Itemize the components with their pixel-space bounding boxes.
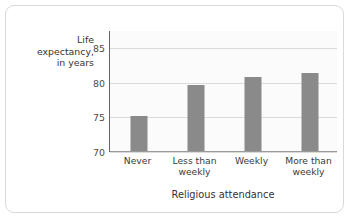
x-axis-tick-label-line: Weekly [221,155,283,166]
y-axis-title-line-3: in years [12,57,94,69]
x-axis-tick-label-line: weekly [164,166,226,177]
x-axis-tick-label-line: More than [278,155,340,166]
x-axis-tick-label: Less thanweekly [164,155,226,177]
y-axis-title: Life expectancy, in years [12,34,94,69]
x-axis-tick-label-line: weekly [278,166,340,177]
bar[interactable] [301,73,318,152]
gridline [110,152,337,153]
bar-slot [224,31,281,152]
x-axis-tick-labels: NeverLess thanweeklyWeeklyMore thanweekl… [109,155,337,185]
chart-card: Life expectancy, in years 70758085 Never… [5,5,344,213]
bars-group [110,31,337,152]
plot-area: 70758085 [109,31,337,152]
x-axis-title: Religious attendance [109,189,337,200]
x-axis-tick-label: More thanweekly [278,155,340,177]
x-axis-tick-label: Never [107,155,169,166]
bar-slot [167,31,224,152]
bar[interactable] [187,85,204,152]
y-axis-tick-label: 75 [93,112,105,123]
y-axis-tick-label: 85 [93,43,105,54]
bar-slot [110,31,167,152]
y-axis-title-line-1: Life [12,34,94,46]
y-axis-tick-label: 80 [93,77,105,88]
x-axis-tick-label-line: Never [107,155,169,166]
y-axis-tick-label: 70 [93,147,105,158]
bar-slot [281,31,338,152]
bar[interactable] [130,116,147,152]
x-axis-tick-label: Weekly [221,155,283,166]
x-axis-line [110,151,337,152]
bar[interactable] [244,77,261,152]
x-axis-tick-label-line: Less than [164,155,226,166]
bar-chart-figure: Life expectancy, in years 70758085 Never… [6,6,345,214]
y-axis-title-line-2: expectancy, [12,46,94,58]
